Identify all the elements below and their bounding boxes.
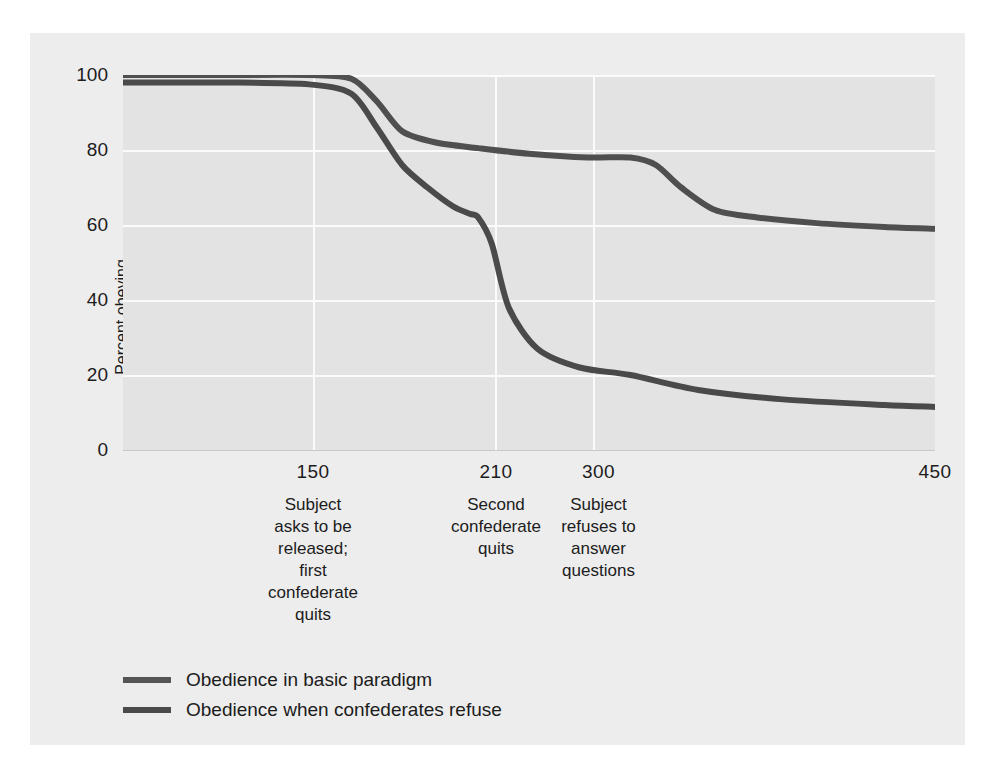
y-axis-title-box: Percent obeying	[62, 153, 86, 353]
x-annotation-line: Second	[441, 494, 551, 516]
series-line-basic-paradigm	[123, 75, 935, 229]
y-tick-label: 0	[60, 440, 108, 459]
plot-area-wrapper	[123, 75, 935, 450]
x-annotation-line: confederate	[258, 582, 368, 604]
x-annotation-line: Subject	[546, 494, 651, 516]
x-tick-label: 150	[258, 461, 368, 483]
y-tick-label: 100	[60, 65, 108, 84]
chart-legend: Obedience in basic paradigm Obedience wh…	[123, 665, 823, 725]
series-line-confederates-refuse	[123, 82, 935, 406]
x-annotation-line: questions	[546, 560, 651, 582]
figure-container: 100 80 60 40 20 0 Percent obeying	[0, 0, 991, 784]
x-annotation-line: quits	[258, 604, 368, 626]
x-annotation-line: refuses to	[546, 516, 651, 538]
x-annotation-group-450: 450	[895, 461, 975, 494]
x-axis-labels: 150 Subject asks to be released; first c…	[123, 461, 991, 651]
x-tick-label: 450	[895, 461, 975, 483]
legend-label: Obedience in basic paradigm	[186, 669, 432, 691]
x-annotation-group-150: 150 Subject asks to be released; first c…	[258, 461, 368, 626]
legend-item-confederates-refuse: Obedience when confederates refuse	[123, 695, 823, 725]
x-axis-line	[123, 450, 935, 451]
x-annotation-group-210: 210 Second confederate quits	[441, 461, 551, 560]
x-annotation-line: released;	[258, 538, 368, 560]
x-annotation-line: Subject	[258, 494, 368, 516]
x-tick-label: 300	[546, 461, 651, 483]
x-tick-label: 210	[441, 461, 551, 483]
plot-area	[123, 75, 935, 450]
legend-label: Obedience when confederates refuse	[186, 699, 502, 721]
x-annotation-line: first	[258, 560, 368, 582]
x-annotation-group-300: 300 Subject refuses to answer questions	[546, 461, 651, 582]
legend-item-basic-paradigm: Obedience in basic paradigm	[123, 665, 823, 695]
y-tick-label: 20	[60, 365, 108, 384]
legend-swatch-icon	[123, 677, 171, 683]
x-annotation-line: answer	[546, 538, 651, 560]
x-annotation-line: confederate	[441, 516, 551, 538]
x-annotation-line: asks to be	[258, 516, 368, 538]
legend-swatch-icon	[123, 707, 171, 713]
x-annotation-line: quits	[441, 538, 551, 560]
series-curves	[123, 75, 935, 450]
chart-panel: 100 80 60 40 20 0 Percent obeying	[30, 33, 965, 745]
